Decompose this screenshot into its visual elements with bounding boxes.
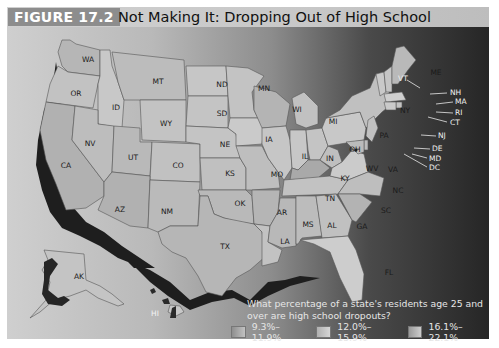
label-ia: IA [265, 135, 273, 144]
leader-ct [428, 117, 447, 122]
label-az: AZ [115, 205, 125, 214]
legend-swatch-high [408, 326, 423, 338]
label-nj: NJ [438, 131, 446, 140]
label-ny: NY [400, 106, 411, 115]
state-ma[interactable] [384, 92, 406, 102]
label-il: IL [302, 152, 309, 161]
legend-item-mid: 12.0%–15.9% [316, 321, 399, 343]
label-al: AL [327, 221, 337, 230]
label-hi: HI [151, 309, 159, 318]
label-vt: VT [398, 74, 408, 83]
legend-label-low: 9.3%–11.9% [252, 321, 309, 343]
legend: 9.3%–11.9% 12.0%–15.9% 16.1%–22.1% [231, 326, 499, 338]
label-nv: NV [85, 139, 97, 148]
label-fl: FL [385, 268, 394, 277]
state-ks[interactable] [200, 158, 246, 190]
label-ct: CT [450, 118, 460, 127]
label-md: MD [429, 154, 441, 163]
label-ar: AR [277, 208, 287, 217]
label-ok: OK [235, 199, 247, 208]
label-nm: NM [161, 207, 173, 216]
label-mn: MN [258, 84, 270, 93]
figure-number: FIGURE 17.2 [8, 8, 120, 26]
label-ca: CA [61, 161, 72, 170]
state-de[interactable] [364, 140, 368, 150]
figure-title: Not Making It: Dropping Out of High Scho… [118, 7, 431, 27]
leader-nj [421, 135, 436, 136]
label-oh: OH [349, 145, 361, 154]
map-panel: WA OR CA ID NV MT WY UT CO AZ NM ND SD N… [7, 27, 489, 339]
leader-nh [430, 93, 447, 94]
leader-ri [436, 112, 453, 113]
us-choropleth-map: WA OR CA ID NV MT WY UT CO AZ NM ND SD N… [7, 27, 489, 339]
label-ut: UT [128, 153, 138, 162]
label-mo: MO [271, 170, 283, 179]
label-wy: WY [160, 119, 172, 128]
leader-md [412, 154, 427, 158]
label-sc: SC [381, 206, 391, 215]
legend-item-high: 16.1%–22.1% [408, 321, 491, 343]
label-la: LA [280, 237, 290, 246]
label-ri: RI [455, 108, 462, 117]
state-mt[interactable] [112, 52, 186, 100]
legend-item-low: 9.3%–11.9% [231, 321, 308, 343]
state-ct[interactable] [384, 102, 396, 110]
label-va: VA [388, 165, 399, 174]
label-de: DE [432, 144, 443, 153]
label-or: OR [70, 89, 81, 98]
leader-dc [404, 154, 427, 167]
leader-ma [436, 102, 453, 104]
legend-question: What percentage of a state's residents a… [247, 298, 487, 322]
state-nm[interactable] [148, 180, 200, 232]
state-nj[interactable] [366, 116, 378, 142]
label-me: ME [430, 68, 441, 77]
label-nd: ND [216, 80, 228, 89]
legend-label-mid: 12.0%–15.9% [337, 321, 400, 343]
label-ks: KS [225, 169, 235, 178]
leader-vt [407, 80, 420, 88]
leader-de [414, 148, 430, 149]
label-mt: MT [152, 77, 163, 86]
label-tn: TN [324, 194, 335, 203]
label-wa: WA [82, 55, 95, 64]
label-dc: DC [429, 163, 440, 172]
label-wv: WV [366, 164, 379, 173]
state-fl[interactable] [300, 236, 364, 302]
label-ga: GA [357, 222, 369, 231]
label-co: CO [172, 161, 183, 170]
label-pa: PA [379, 131, 389, 140]
label-ma: MA [455, 97, 467, 106]
label-in: IN [326, 154, 334, 163]
legend-swatch-mid [316, 326, 331, 338]
legend-label-high: 16.1%–22.1% [428, 321, 491, 343]
legend-swatch-low [231, 326, 246, 338]
label-id: ID [112, 103, 120, 112]
state-az[interactable] [98, 172, 150, 228]
label-nc: NC [393, 186, 404, 195]
label-wi: WI [292, 105, 302, 114]
label-ne: NE [220, 140, 231, 149]
label-nh: NH [450, 88, 461, 97]
label-tx: TX [219, 242, 230, 251]
label-ky: KY [340, 174, 350, 183]
label-sd: SD [217, 109, 228, 118]
label-mi: MI [329, 117, 338, 126]
label-ms: MS [302, 220, 313, 229]
label-ak: AK [74, 272, 85, 281]
